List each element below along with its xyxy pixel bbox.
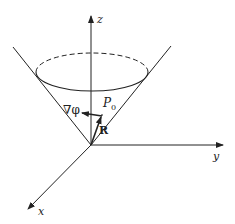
x-axis	[28, 145, 91, 209]
gradient-label: ∇φ	[63, 103, 80, 117]
cone-rim-back	[36, 53, 148, 72]
x-axis-label: x	[38, 205, 45, 218]
r-label: R	[99, 124, 109, 137]
cone-left-edge	[13, 47, 91, 145]
p0-label: P0	[102, 96, 116, 112]
z-axis-label: z	[96, 13, 103, 26]
cone-rim-front	[36, 72, 148, 91]
gradient-vector	[82, 113, 102, 116]
cone-diagram: z y x ∇φ R P0	[0, 0, 235, 224]
y-axis-label: y	[212, 150, 220, 163]
